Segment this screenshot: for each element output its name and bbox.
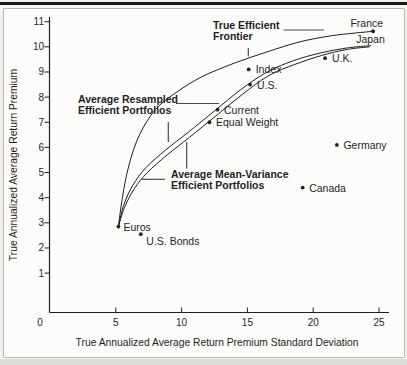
data-point-u-k- <box>323 56 327 60</box>
point-label-index: Index <box>256 63 282 75</box>
y-tick-label: 4 <box>38 192 44 203</box>
data-point-germany <box>335 143 339 147</box>
annotation-average-mean-variance: Average Mean-Variance Efficient Portfoli… <box>171 169 289 190</box>
data-point-index <box>247 68 251 72</box>
annotation-line: Frontier <box>213 31 280 42</box>
point-label-u-s-bonds: U.S. Bonds <box>146 235 199 247</box>
point-label-current: Current <box>224 104 259 116</box>
point-label-germany: Germany <box>343 139 387 151</box>
y-tick-label: 9 <box>38 66 44 77</box>
x-tick-label: 20 <box>308 317 320 328</box>
data-point-u-s-bonds <box>139 232 143 236</box>
x-tick-label: 10 <box>176 317 188 328</box>
data-point-u-s- <box>248 83 252 87</box>
annotation-line: Efficient Portfolios <box>171 180 289 191</box>
figure-page: 12345678910110510152025FranceJapanU.K.In… <box>0 0 407 365</box>
point-label-u-s-: U.S. <box>257 79 277 91</box>
y-tick-label: 10 <box>33 41 45 52</box>
annotation-line: Efficient Portfolios <box>78 105 178 116</box>
x-tick-label: 25 <box>373 317 385 328</box>
x-tick-label: 5 <box>113 317 119 328</box>
y-tick-label: 5 <box>38 167 44 178</box>
y-axis-title: True Annualized Average Return Premium <box>8 69 19 261</box>
x-tick-label: 15 <box>242 317 254 328</box>
annotation-line: Average Resampled <box>78 94 178 105</box>
curve-average-mean-variance-efficient-portfolios <box>118 47 369 227</box>
annotation-line: True Efficient <box>213 20 280 31</box>
data-point-euros <box>117 225 121 229</box>
curve-average-resampled-efficient-portfolios <box>118 46 371 227</box>
y-tick-label: 11 <box>34 16 45 27</box>
annotation-true-efficient-frontier: True Efficient Frontier <box>213 20 280 41</box>
y-tick-label: 8 <box>38 92 44 103</box>
y-tick-label: 2 <box>38 242 44 253</box>
point-label-canada: Canada <box>309 182 346 194</box>
y-tick-label: 6 <box>38 142 44 153</box>
point-label-japan: Japan <box>356 33 385 45</box>
annotation-line: Average Mean-Variance <box>171 169 289 180</box>
y-tick-label: 7 <box>38 117 44 128</box>
x-axis-title: True Annualized Average Return Premium S… <box>76 337 359 348</box>
annotation-average-resampled: Average Resampled Efficient Portfolios <box>78 94 178 115</box>
data-point-canada <box>301 186 305 190</box>
point-label-france: France <box>350 17 383 29</box>
point-label-equal-weight: Equal Weight <box>216 116 278 128</box>
data-point-current <box>216 108 220 112</box>
x-tick-label: 0 <box>37 317 43 328</box>
y-tick-label: 3 <box>38 217 44 228</box>
point-label-euros: Euros <box>123 221 150 233</box>
point-label-u-k-: U.K. <box>332 52 352 64</box>
y-tick-label: 1 <box>38 268 44 279</box>
data-point-equal-weight <box>208 120 212 124</box>
